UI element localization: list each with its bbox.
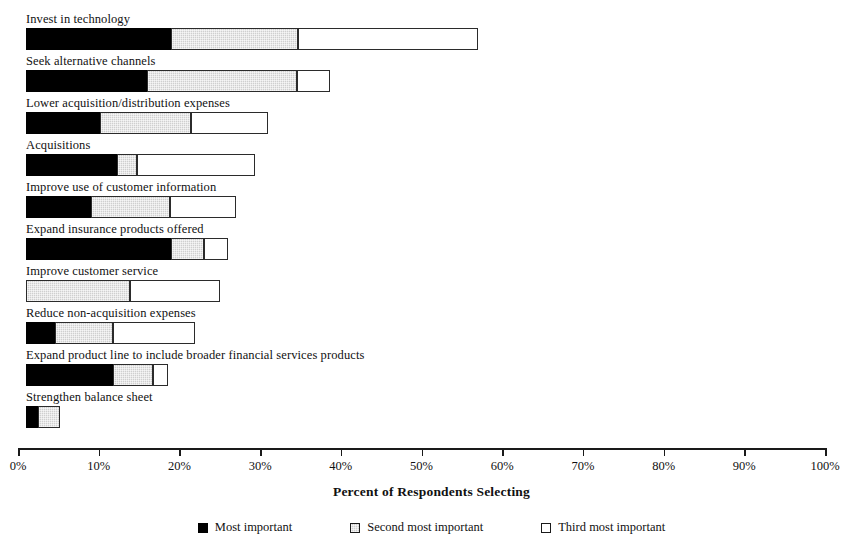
bar-segment xyxy=(26,238,171,260)
x-axis-tick-label: 0% xyxy=(10,459,27,474)
bar-group: Improve use of customer information xyxy=(0,180,863,222)
x-axis-tick-label: 90% xyxy=(733,459,756,474)
x-axis-tick-label: 10% xyxy=(87,459,110,474)
bar-track xyxy=(26,406,60,428)
legend-swatch-third-icon xyxy=(541,523,551,533)
bar-group: Acquisitions xyxy=(0,138,863,180)
bar-segment xyxy=(147,70,297,92)
bar-segment xyxy=(117,154,137,176)
bar-category-label: Expand insurance products offered xyxy=(26,222,204,236)
legend-item[interactable]: Third most important xyxy=(541,520,665,535)
bar-segment xyxy=(204,238,228,260)
bar-segment xyxy=(137,154,255,176)
bar-segment xyxy=(171,238,203,260)
x-axis-tick-label: 70% xyxy=(571,459,594,474)
x-axis-tick xyxy=(744,448,746,456)
x-axis-tick xyxy=(179,448,181,456)
x-axis-tick-label: 50% xyxy=(410,459,433,474)
x-axis-tick xyxy=(664,448,666,456)
bar-segment xyxy=(191,112,268,134)
x-axis-title: Percent of Respondents Selecting xyxy=(0,484,863,500)
bar-segment xyxy=(298,28,478,50)
bar-track xyxy=(26,112,268,134)
bar-segment xyxy=(26,322,55,344)
legend-swatch-second-icon xyxy=(350,523,360,533)
bar-group: Invest in technology xyxy=(0,12,863,54)
x-axis-tick xyxy=(99,448,101,456)
x-axis-tick-label: 100% xyxy=(810,459,839,474)
bar-category-label: Lower acquisition/distribution expenses xyxy=(26,96,230,110)
bar-category-label: Acquisitions xyxy=(26,138,90,152)
bar-category-label: Seek alternative channels xyxy=(26,54,156,68)
bar-segment xyxy=(297,70,330,92)
x-axis-tick-label: 60% xyxy=(491,459,514,474)
bar-segment xyxy=(55,322,113,344)
bar-category-label: Reduce non-acquisition expenses xyxy=(26,306,196,320)
bar-track xyxy=(26,70,330,92)
bar-segment xyxy=(26,28,171,50)
bar-segment xyxy=(100,112,190,134)
x-axis-tick xyxy=(260,448,262,456)
legend-swatch-most-icon xyxy=(198,523,208,533)
bar-segment xyxy=(170,196,235,218)
bar-segment xyxy=(26,196,91,218)
bar-segment xyxy=(171,28,298,50)
legend-label: Most important xyxy=(215,520,292,535)
bar-category-label: Improve use of customer information xyxy=(26,180,216,194)
bar-track xyxy=(26,238,228,260)
bar-segment xyxy=(91,196,171,218)
bar-segment xyxy=(26,154,117,176)
bar-track xyxy=(26,154,255,176)
bar-segment xyxy=(153,364,168,386)
x-axis-tick xyxy=(422,448,424,456)
bar-track xyxy=(26,322,195,344)
bar-track xyxy=(26,280,220,302)
bar-segment xyxy=(38,406,60,428)
x-axis-tick xyxy=(825,448,827,456)
x-axis-tick-label: 40% xyxy=(329,459,352,474)
x-axis-tick xyxy=(18,448,20,456)
bar-segment xyxy=(26,112,100,134)
x-axis: 0%10%20%30%40%50%60%70%80%90%100% xyxy=(0,440,863,488)
x-axis-tick xyxy=(502,448,504,456)
bar-category-label: Expand product line to include broader f… xyxy=(26,348,364,362)
bar-segment xyxy=(113,364,153,386)
bar-group: Expand insurance products offered xyxy=(0,222,863,264)
legend-item[interactable]: Most important xyxy=(198,520,292,535)
x-axis-tick xyxy=(583,448,585,456)
stacked-bar-chart: Invest in technologySeek alternative cha… xyxy=(0,0,863,560)
bar-track xyxy=(26,28,478,50)
bar-segment xyxy=(26,364,113,386)
bar-segment xyxy=(26,406,38,428)
bar-group: Seek alternative channels xyxy=(0,54,863,96)
legend-label: Third most important xyxy=(558,520,665,535)
legend-label: Second most important xyxy=(367,520,483,535)
bar-category-label: Invest in technology xyxy=(26,12,130,26)
bar-group: Strengthen balance sheet xyxy=(0,390,863,432)
bar-category-label: Strengthen balance sheet xyxy=(26,390,153,404)
legend-item[interactable]: Second most important xyxy=(350,520,483,535)
bar-track xyxy=(26,196,236,218)
chart-legend: Most importantSecond most importantThird… xyxy=(0,520,863,535)
x-axis-tick-label: 80% xyxy=(652,459,675,474)
x-axis-tick xyxy=(341,448,343,456)
bar-group: Improve customer service xyxy=(0,264,863,306)
bar-group: Expand product line to include broader f… xyxy=(0,348,863,390)
bar-track xyxy=(26,364,168,386)
bar-segment xyxy=(26,280,130,302)
plot-area: Invest in technologySeek alternative cha… xyxy=(0,0,863,440)
bar-category-label: Improve customer service xyxy=(26,264,158,278)
x-axis-tick-label: 30% xyxy=(249,459,272,474)
bar-group: Reduce non-acquisition expenses xyxy=(0,306,863,348)
bar-segment xyxy=(130,280,220,302)
bar-group: Lower acquisition/distribution expenses xyxy=(0,96,863,138)
x-axis-tick-label: 20% xyxy=(168,459,191,474)
bar-segment xyxy=(113,322,195,344)
bar-segment xyxy=(26,70,147,92)
